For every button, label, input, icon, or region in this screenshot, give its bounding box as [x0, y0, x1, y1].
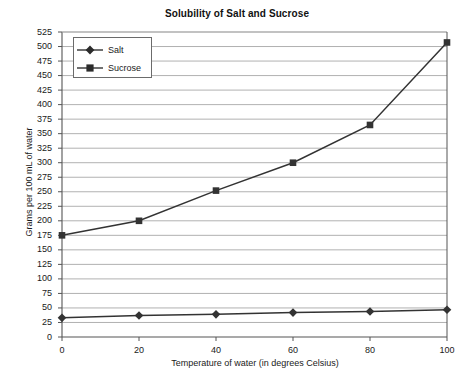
- y-tick-label: 450: [24, 71, 52, 80]
- y-tick-label: 225: [24, 202, 52, 211]
- legend-marker-salt-diamond: [74, 41, 106, 59]
- y-tick-label: 275: [24, 173, 52, 182]
- data-point-salt: [135, 311, 144, 320]
- data-point-salt: [58, 314, 67, 323]
- data-point-sucrose: [59, 232, 66, 239]
- data-point-sucrose: [290, 159, 297, 166]
- legend-label-salt: Salt: [108, 45, 124, 55]
- y-tick-label: 300: [24, 158, 52, 167]
- plot-area: [0, 0, 474, 390]
- y-tick-label: 175: [24, 231, 52, 240]
- legend-item-salt: Salt: [74, 41, 153, 59]
- data-point-salt: [212, 310, 221, 319]
- chart-title: Solubility of Salt and Sucrose: [0, 8, 474, 19]
- y-tick-label: 150: [24, 245, 52, 254]
- y-tick-label: 475: [24, 57, 52, 66]
- x-tick-label: 100: [432, 346, 462, 355]
- legend-marker-sucrose-square: [74, 59, 106, 77]
- x-tick-label: 0: [47, 346, 77, 355]
- data-point-sucrose: [213, 187, 220, 194]
- y-tick-label: 500: [24, 42, 52, 51]
- x-tick-label: 20: [124, 346, 154, 355]
- data-point-sucrose: [136, 218, 143, 225]
- data-point-salt: [443, 305, 452, 314]
- y-tick-label: 375: [24, 115, 52, 124]
- data-point-salt: [366, 307, 375, 316]
- x-axis-ticks: [62, 337, 447, 341]
- y-tick-label: 25: [24, 318, 52, 327]
- x-tick-label: 60: [278, 346, 308, 355]
- y-tick-label: 125: [24, 260, 52, 269]
- y-tick-label: 200: [24, 216, 52, 225]
- y-tick-label: 75: [24, 289, 52, 298]
- chart-legend: Salt Sucrose: [73, 37, 152, 78]
- series-layer: [58, 39, 452, 322]
- solubility-line-chart: Solubility of Salt and Sucrose Grams per…: [0, 0, 474, 390]
- legend-label-sucrose: Sucrose: [108, 63, 141, 73]
- data-point-sucrose: [444, 39, 451, 46]
- y-tick-label: 250: [24, 187, 52, 196]
- x-tick-label: 80: [355, 346, 385, 355]
- y-tick-label: 100: [24, 274, 52, 283]
- x-tick-label: 40: [201, 346, 231, 355]
- y-tick-label: 525: [24, 28, 52, 37]
- data-point-salt: [289, 308, 298, 317]
- x-axis-title: Temperature of water (in degrees Celsius…: [62, 358, 448, 368]
- data-point-sucrose: [367, 122, 374, 129]
- y-tick-label: 325: [24, 144, 52, 153]
- y-tick-label: 425: [24, 86, 52, 95]
- series-line-salt: [62, 310, 447, 318]
- y-axis-ticks: [58, 32, 62, 337]
- y-tick-label: 350: [24, 129, 52, 138]
- y-tick-label: 0: [24, 333, 52, 342]
- y-tick-label: 50: [24, 303, 52, 312]
- y-tick-label: 400: [24, 100, 52, 109]
- legend-item-sucrose: Sucrose: [74, 59, 153, 77]
